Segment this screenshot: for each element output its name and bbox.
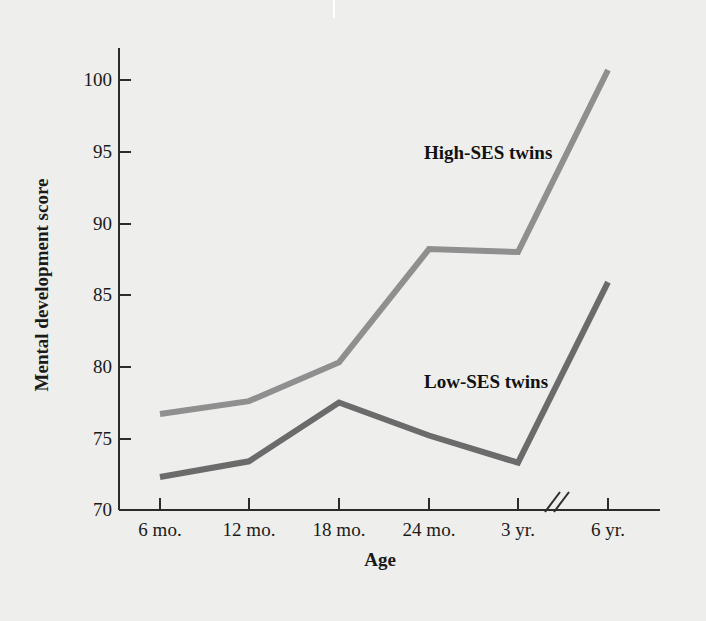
- series-label-low-ses: Low-SES twins: [424, 371, 548, 393]
- x-tick-label-6yr: 6 yr.: [591, 519, 625, 541]
- y-tick-label-85: 85: [70, 284, 112, 306]
- y-tick-marks: [119, 80, 131, 510]
- series-line-high-ses: [160, 70, 608, 414]
- y-axis-title: Mental development score: [31, 179, 53, 392]
- y-tick-label-90: 90: [70, 213, 112, 235]
- y-tick-label-80: 80: [70, 356, 112, 378]
- x-tick-label-18mo: 18 mo.: [313, 519, 366, 541]
- x-axis-title: Age: [364, 549, 396, 571]
- x-tick-label-24mo: 24 mo.: [403, 519, 456, 541]
- x-tick-label-12mo: 12 mo.: [223, 519, 276, 541]
- x-tick-marks: [160, 498, 608, 510]
- y-tick-label-70: 70: [70, 499, 112, 521]
- chart-figure: 100 95 90 85 80 75 70 6 mo. 12 mo. 18 mo…: [0, 0, 706, 621]
- series-label-high-ses: High-SES twins: [424, 142, 552, 164]
- x-tick-label-6mo: 6 mo.: [138, 519, 181, 541]
- y-tick-label-75: 75: [70, 428, 112, 450]
- y-tick-label-100: 100: [70, 69, 112, 91]
- x-tick-label-3yr: 3 yr.: [501, 519, 535, 541]
- y-tick-label-95: 95: [70, 141, 112, 163]
